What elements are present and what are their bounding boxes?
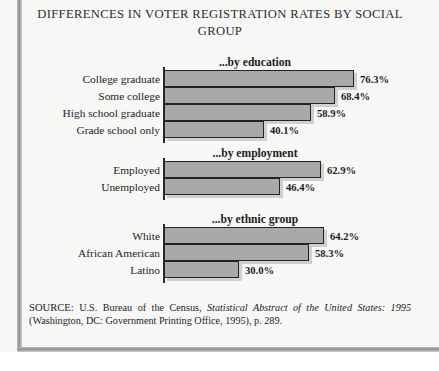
bar-value-african-american: 58.3% (315, 247, 344, 258)
section-heading-education: ...by education (155, 56, 355, 69)
bar-label-some-college: Some college (98, 90, 160, 102)
bar-label-high-school-graduate: High school graduate (63, 107, 160, 119)
section-heading-ethnic-group: ...by ethnic group (155, 213, 355, 226)
bar-label-african-american: African American (78, 247, 160, 259)
bar-label-unemployed: Unemployed (101, 181, 160, 193)
bar-unemployed (164, 178, 280, 195)
bar-some-college (164, 87, 335, 104)
page-rule-left (17, 0, 22, 352)
page-margin-bottom (0, 352, 439, 371)
bar-value-white: 64.2% (330, 230, 359, 241)
bar-white (164, 227, 324, 244)
bar-value-unemployed: 46.4% (286, 181, 315, 192)
bar-value-grade-school-only: 40.1% (270, 124, 299, 135)
bar-latino (164, 261, 239, 278)
source-label: SOURCE: (29, 302, 74, 313)
bar-label-grade-school-only: Grade school only (76, 124, 160, 136)
source-text-part1: U.S. Bureau of the Census, (74, 302, 207, 313)
bar-value-some-college: 68.4% (341, 90, 370, 101)
figure-title: DIFFERENCES IN VOTER REGISTRATION RATES … (34, 6, 406, 40)
bar-grade-school-only (164, 121, 264, 138)
bar-value-employed: 62.9% (327, 164, 356, 175)
bar-label-employed: Employed (113, 164, 160, 176)
bar-employed (164, 161, 321, 178)
bar-high-school-graduate (164, 104, 311, 121)
source-text-part2: (Washington, DC: Government Printing Off… (29, 315, 282, 326)
bar-label-college-graduate: College graduate (83, 73, 161, 85)
bar-label-white: White (132, 230, 160, 242)
source-note: SOURCE: U.S. Bureau of the Census, Stati… (29, 301, 411, 328)
bar-value-college-graduate: 76.3% (360, 73, 389, 84)
bar-college-graduate (164, 70, 354, 87)
source-publication-title: Statistical Abstract of the United State… (207, 302, 411, 313)
figure-container: DIFFERENCES IN VOTER REGISTRATION RATES … (0, 0, 439, 371)
bar-value-latino: 30.0% (245, 264, 274, 275)
bar-value-high-school-graduate: 58.9% (317, 107, 346, 118)
bar-african-american (164, 244, 309, 261)
section-heading-employment: ...by employment (155, 147, 355, 160)
bar-label-latino: Latino (130, 264, 160, 276)
